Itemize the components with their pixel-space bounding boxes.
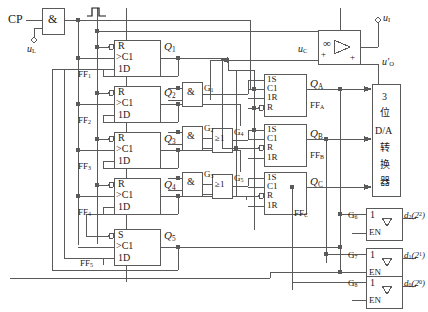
- qa-label: QA: [310, 78, 323, 91]
- ffa-pin-1r: 1R: [267, 93, 278, 102]
- ff1-pin-clk: >C1: [116, 52, 133, 62]
- dac-line2: 位: [380, 108, 390, 118]
- arrow-qb: [364, 136, 372, 142]
- comparator-plus-bottom: +: [350, 53, 355, 62]
- ffc-pin-1r: 1R: [267, 201, 278, 210]
- ff5-pin-clk: >C1: [116, 241, 133, 251]
- ff4-name: FF4: [78, 208, 91, 218]
- ff5-pin-s: S: [118, 230, 124, 240]
- arrow-qa: [364, 86, 372, 92]
- bubble-ff5-s: [109, 233, 114, 238]
- ui-label: uI: [383, 13, 390, 24]
- d0-output-label: d0(20): [404, 279, 425, 289]
- g7-label: G7: [348, 251, 357, 261]
- ff4-pin-d: 1D: [118, 202, 130, 212]
- ff1-pin-r: R: [118, 41, 125, 51]
- ff2-pin-clk: >C1: [116, 98, 133, 108]
- d1-output-label: d1(21): [404, 251, 425, 261]
- ffc-name: FFC: [294, 209, 308, 219]
- comparator-gain-symbol: ∞: [323, 38, 331, 49]
- uo-label: u′O: [382, 57, 394, 68]
- d2-output-label: d2(22): [404, 211, 425, 221]
- junction-ff1-r: [95, 45, 99, 49]
- ul-label: uL: [27, 44, 36, 55]
- ff2-pin-d: 1D: [118, 110, 130, 120]
- terminal-ui: [376, 18, 380, 22]
- ffb-pin-r: R: [267, 143, 273, 152]
- g8-pin-en: EN: [369, 296, 381, 305]
- ff2-pin-r: R: [118, 87, 125, 97]
- g7-pin-in: 1: [370, 250, 375, 260]
- ff5-pin-d: 1D: [118, 253, 130, 263]
- ff3-pin-r: R: [118, 133, 125, 143]
- dac-line4: 转: [380, 143, 390, 153]
- comparator-plus-left: +: [321, 50, 326, 59]
- ff5-name: FF5: [80, 259, 93, 269]
- g8-pin-in: 1: [370, 278, 375, 288]
- ffb-name: FFB: [310, 151, 324, 161]
- ff4-pin-clk: >C1: [116, 190, 133, 200]
- junction-ffa-r: [252, 106, 256, 110]
- arrow-qc: [364, 184, 372, 190]
- g3-symbol: &: [187, 177, 195, 187]
- dac-line3: D/A: [375, 126, 392, 136]
- junction-ffb-1s: [252, 128, 256, 132]
- g5-symbol: ≥1: [215, 180, 224, 189]
- ff1-name: FF1: [78, 70, 91, 80]
- g4-label: G4: [234, 128, 243, 138]
- ff3-pin-d: 1D: [118, 156, 130, 166]
- pulse-symbol-icon: [86, 6, 108, 18]
- junction-ff4-r: [95, 183, 99, 187]
- ff2-name: FF2: [78, 116, 91, 126]
- g3-label: G3: [204, 170, 213, 180]
- g1-label: G1: [204, 84, 213, 94]
- g1-symbol: &: [187, 87, 195, 97]
- qb-label: QB: [310, 128, 323, 141]
- q5-label: Q5: [164, 230, 176, 243]
- junction-ff3-r: [95, 137, 99, 141]
- junction-ff3-clk: [76, 148, 80, 152]
- junction-qb-g7: [324, 252, 328, 256]
- ffc-pin-r: R: [267, 191, 273, 200]
- junction-qa-g6: [338, 212, 342, 216]
- dac-line6: 器: [380, 177, 390, 187]
- bubble-ff3-r: [109, 136, 114, 141]
- bubble-ffb-r: [259, 145, 264, 150]
- junction-ff2-clk: [76, 102, 80, 106]
- g6-label: G6: [348, 211, 357, 221]
- uc-label: uC: [298, 44, 307, 55]
- junction-ff2-r: [95, 91, 99, 95]
- junction-g1-in1: [176, 86, 180, 90]
- g4-symbol: ≥1: [215, 134, 224, 143]
- ff3-name: FF3: [78, 162, 91, 172]
- ff4-pin-r: R: [118, 179, 125, 189]
- junction-q5-en: [338, 245, 342, 249]
- q2-label: Q2: [164, 87, 176, 100]
- junction-ffa-c1: [252, 87, 256, 91]
- ff3-pin-clk: >C1: [116, 144, 133, 154]
- junction-97-31: [95, 29, 99, 33]
- bubble-ff4-r: [109, 182, 114, 187]
- g2-symbol: &: [187, 131, 195, 141]
- q4-label: Q4: [164, 179, 176, 192]
- qc-label: QC: [310, 176, 323, 189]
- bubble-ffc-r: [259, 193, 264, 198]
- g6-pin-en: EN: [369, 228, 381, 237]
- junction-g3-in1: [176, 176, 180, 180]
- ffa-pin-r: R: [267, 103, 273, 112]
- dac-line5: 换: [380, 160, 390, 170]
- bubble-ff1-r: [109, 44, 114, 49]
- cp-label: CP: [8, 13, 23, 25]
- clock-and-symbol: &: [48, 13, 57, 25]
- dac-line1: 3: [382, 92, 387, 102]
- junction-ff1-clk: [76, 56, 80, 60]
- circuit-schematic-svg: [0, 0, 428, 312]
- bubble-ff2-r: [109, 90, 114, 95]
- junction-g2-in1: [176, 130, 180, 134]
- bubble-ffa-r: [259, 105, 264, 110]
- g5-label: G5: [234, 174, 243, 184]
- q3-label: Q3: [164, 133, 176, 146]
- g8-label: G8: [348, 279, 357, 289]
- g7-pin-en: EN: [369, 268, 381, 277]
- q1-label: Q1: [164, 41, 176, 54]
